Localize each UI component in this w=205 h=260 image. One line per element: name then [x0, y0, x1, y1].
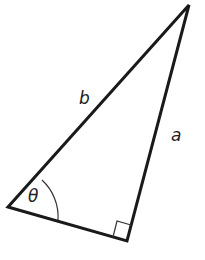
triangle-diagram: θ b a [0, 0, 205, 260]
angle-arc [42, 180, 58, 220]
hypotenuse-label: b [79, 88, 90, 108]
angle-label: θ [28, 186, 39, 206]
side-label: a [171, 125, 181, 145]
